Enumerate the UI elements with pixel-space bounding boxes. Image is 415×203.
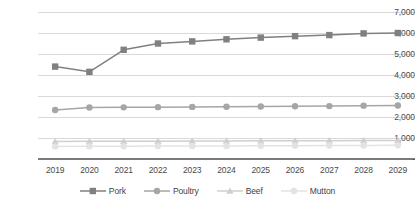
x-tick-label: 2019 xyxy=(38,162,72,178)
data-point xyxy=(52,107,58,113)
data-point xyxy=(155,143,161,149)
x-tick-label: 2020 xyxy=(72,162,106,178)
data-point xyxy=(189,143,195,149)
x-tick-label: 2022 xyxy=(141,162,175,178)
x-tick-label: 2023 xyxy=(175,162,209,178)
x-tick-label: 2028 xyxy=(346,162,380,178)
data-point xyxy=(189,104,195,110)
data-point xyxy=(395,30,401,36)
data-point xyxy=(52,143,58,149)
legend-item-pork[interactable]: Pork xyxy=(80,186,126,196)
circle-marker-icon xyxy=(281,186,307,196)
data-point xyxy=(395,102,401,108)
data-point xyxy=(155,40,161,46)
x-tick-label: 2025 xyxy=(244,162,278,178)
x-tick-label: 2029 xyxy=(381,162,415,178)
data-point xyxy=(258,143,264,149)
x-tick-label: 2027 xyxy=(312,162,346,178)
legend-label: Poultry xyxy=(173,186,199,196)
data-point xyxy=(120,143,126,149)
data-point xyxy=(326,103,332,109)
legend-item-poultry[interactable]: Poultry xyxy=(144,186,199,196)
data-point xyxy=(258,34,264,40)
x-tick-label: 2026 xyxy=(278,162,312,178)
data-point xyxy=(155,104,161,110)
triangle-marker-icon xyxy=(217,186,243,196)
circle-marker-icon xyxy=(144,186,170,196)
data-point xyxy=(120,104,126,110)
data-point xyxy=(86,104,92,110)
series-poultry xyxy=(52,102,401,113)
legend-item-mutton[interactable]: Mutton xyxy=(281,186,335,196)
square-marker-icon xyxy=(80,186,106,196)
legend-label: Mutton xyxy=(310,186,335,196)
series-pork xyxy=(52,30,401,75)
data-point xyxy=(360,102,366,108)
data-point xyxy=(292,33,298,39)
data-point xyxy=(223,36,229,42)
data-point xyxy=(326,142,332,148)
legend-label: Beef xyxy=(246,186,263,196)
data-point xyxy=(258,103,264,109)
series-layer xyxy=(0,0,415,168)
x-axis-labels: 2019202020212022202320242025202620272028… xyxy=(38,162,415,178)
data-point xyxy=(360,142,366,148)
data-point xyxy=(86,69,92,75)
data-point xyxy=(292,103,298,109)
plot-area: -1,0002,0003,0004,0005,0006,0007,000 xyxy=(0,0,415,168)
data-point xyxy=(360,30,366,36)
data-point xyxy=(292,142,298,148)
line-chart: -1,0002,0003,0004,0005,0006,0007,000 201… xyxy=(0,0,415,203)
data-point xyxy=(223,143,229,149)
data-point xyxy=(395,142,401,148)
x-tick-label: 2021 xyxy=(107,162,141,178)
data-point xyxy=(86,143,92,149)
legend-item-beef[interactable]: Beef xyxy=(217,186,263,196)
data-point xyxy=(52,63,58,69)
legend-label: Pork xyxy=(109,186,126,196)
data-point xyxy=(223,104,229,110)
series-mutton xyxy=(52,142,401,149)
x-tick-label: 2024 xyxy=(209,162,243,178)
data-point xyxy=(189,38,195,44)
data-point xyxy=(120,47,126,53)
data-point xyxy=(326,32,332,38)
chart-legend: PorkPoultryBeefMutton xyxy=(0,182,415,200)
